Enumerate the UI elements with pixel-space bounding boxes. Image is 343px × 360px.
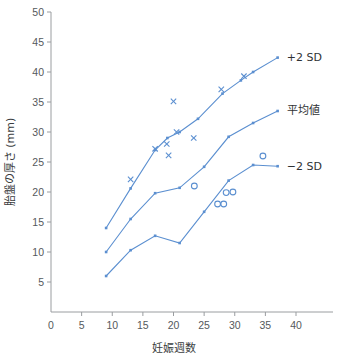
scatter-cross-marker — [219, 87, 224, 92]
series-node — [129, 187, 132, 190]
series-layer — [105, 56, 279, 277]
x-tick-label: 10 — [106, 319, 118, 331]
series-node — [276, 110, 279, 113]
y-axis-title: 胎盤の厚さ (mm) — [3, 118, 17, 207]
series-line-2 — [106, 165, 278, 276]
series-node — [105, 275, 108, 278]
y-tick-label: 5 — [38, 276, 44, 288]
series-annotation-0: +2 SD — [287, 51, 322, 64]
y-tick-label: 30 — [32, 126, 44, 138]
series-node — [227, 136, 230, 139]
series-node — [203, 166, 206, 169]
x-tick-label: 25 — [198, 319, 210, 331]
x-tick-label: 20 — [168, 319, 180, 331]
scatter-cross-marker — [171, 99, 176, 104]
scatter-circle-marker — [223, 190, 229, 196]
series-line-1 — [106, 111, 278, 252]
y-tick-label: 50 — [32, 6, 44, 18]
y-tick-label: 40 — [32, 66, 44, 78]
series-node — [154, 235, 157, 238]
x-tick-label: 15 — [137, 319, 149, 331]
y-tick-label: 35 — [32, 96, 44, 108]
series-annotation-1: 平均値 — [287, 104, 320, 117]
series-node — [154, 192, 157, 195]
y-tick-label: 25 — [32, 156, 44, 168]
scatter-cross-marker — [191, 135, 196, 140]
series-node — [178, 242, 181, 245]
scatter-layer — [128, 74, 266, 207]
series-line-0 — [106, 58, 278, 228]
series-node — [227, 179, 230, 182]
scatter-circle-marker — [221, 201, 227, 207]
x-tick-label: 0 — [48, 319, 54, 331]
series-node — [276, 56, 279, 59]
y-tick-label: 15 — [32, 216, 44, 228]
series-node — [105, 251, 108, 254]
scatter-cross-marker — [166, 153, 171, 158]
x-tick-label: 30 — [229, 319, 241, 331]
series-node — [105, 227, 108, 230]
series-node — [203, 211, 206, 214]
series-node — [276, 165, 279, 168]
series-node — [166, 137, 169, 140]
series-node — [252, 71, 255, 74]
scatter-circle-marker — [191, 183, 197, 189]
scatter-cross-marker — [164, 141, 169, 146]
series-annotation-2: −2 SD — [287, 160, 322, 173]
chart-canvas: 51015202530354045500510152025303540妊娠週数胎… — [0, 0, 343, 360]
placenta-thickness-chart: 51015202530354045500510152025303540妊娠週数胎… — [0, 0, 343, 360]
series-node — [129, 249, 132, 252]
scatter-circle-marker — [230, 189, 236, 195]
y-tick-label: 10 — [32, 246, 44, 258]
scatter-circle-marker — [215, 201, 221, 207]
scatter-cross-marker — [128, 177, 133, 182]
x-tick-label: 5 — [79, 319, 85, 331]
series-node — [252, 122, 255, 125]
x-tick-label: 35 — [260, 319, 272, 331]
series-node — [129, 218, 132, 221]
x-axis-title: 妊娠週数 — [152, 341, 196, 355]
series-node — [197, 118, 200, 121]
series-node — [252, 164, 255, 167]
series-node — [178, 187, 181, 190]
series-node — [221, 92, 224, 95]
scatter-circle-marker — [260, 153, 266, 159]
x-tick-label: 40 — [290, 319, 302, 331]
series-node — [240, 79, 243, 82]
y-tick-label: 20 — [32, 186, 44, 198]
series-node — [178, 131, 181, 134]
y-tick-label: 45 — [32, 36, 44, 48]
